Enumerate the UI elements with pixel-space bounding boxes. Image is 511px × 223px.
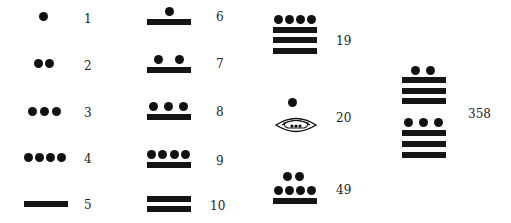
dot-icon bbox=[274, 15, 283, 24]
numeral-label: 2 bbox=[84, 60, 92, 72]
dot-icon bbox=[34, 59, 43, 68]
dot-icon bbox=[307, 15, 316, 24]
dot-icon bbox=[40, 107, 49, 116]
bar-icon bbox=[273, 198, 317, 204]
shell-icon bbox=[275, 115, 317, 135]
dot-icon bbox=[285, 15, 294, 24]
dot-icon bbox=[296, 15, 305, 24]
bar-icon bbox=[147, 67, 191, 73]
dot-icon bbox=[170, 150, 179, 159]
bar-icon bbox=[402, 130, 446, 136]
dot-icon bbox=[179, 102, 188, 111]
dot-icon bbox=[164, 102, 173, 111]
numeral-label: 3 bbox=[84, 107, 92, 119]
dot-icon bbox=[46, 153, 55, 162]
dot-icon bbox=[52, 107, 61, 116]
numeral-label: 19 bbox=[336, 35, 351, 47]
dot-icon bbox=[154, 55, 163, 64]
numeral-label: 49 bbox=[336, 184, 351, 196]
dot-icon bbox=[158, 150, 167, 159]
bar-icon bbox=[147, 19, 191, 25]
dot-icon bbox=[283, 172, 292, 181]
numeral-label: 20 bbox=[336, 112, 351, 124]
dot-icon bbox=[28, 107, 37, 116]
dot-icon bbox=[295, 172, 304, 181]
dot-icon bbox=[57, 153, 66, 162]
bar-icon bbox=[402, 141, 446, 147]
dot-icon bbox=[426, 66, 435, 75]
numeral-label: 10 bbox=[210, 200, 225, 212]
dot-icon bbox=[24, 153, 33, 162]
dot-icon bbox=[45, 59, 54, 68]
numeral-label: 7 bbox=[216, 58, 224, 70]
dot-icon bbox=[419, 118, 428, 127]
dot-icon bbox=[411, 66, 420, 75]
numeral-label: 358 bbox=[468, 108, 491, 120]
dot-icon bbox=[285, 186, 294, 195]
bar-icon bbox=[402, 98, 446, 104]
dot-icon bbox=[175, 55, 184, 64]
dot-icon bbox=[181, 150, 190, 159]
numeral-label: 4 bbox=[84, 153, 92, 165]
dot-icon bbox=[147, 150, 156, 159]
bar-icon bbox=[273, 37, 317, 43]
numeral-label: 5 bbox=[84, 199, 92, 211]
dot-icon bbox=[307, 186, 316, 195]
dot-icon bbox=[149, 102, 158, 111]
numeral-label: 8 bbox=[216, 106, 224, 118]
dot-icon bbox=[296, 186, 305, 195]
dot-icon bbox=[434, 118, 443, 127]
bar-icon bbox=[402, 77, 446, 83]
bar-icon bbox=[402, 88, 446, 94]
bar-icon bbox=[273, 48, 317, 54]
bar-icon bbox=[402, 152, 446, 158]
bar-icon bbox=[147, 196, 191, 202]
dot-icon bbox=[39, 12, 48, 21]
numeral-label: 6 bbox=[216, 11, 224, 23]
numeral-label: 9 bbox=[216, 155, 224, 167]
bar-icon bbox=[147, 206, 191, 212]
dot-icon bbox=[274, 186, 283, 195]
bar-icon bbox=[273, 27, 317, 33]
numeral-label: 1 bbox=[84, 13, 92, 25]
dot-icon bbox=[165, 7, 174, 16]
dot-icon bbox=[288, 98, 297, 107]
dot-icon bbox=[404, 118, 413, 127]
bar-icon bbox=[147, 114, 191, 120]
dot-icon bbox=[35, 153, 44, 162]
bar-icon bbox=[147, 162, 191, 168]
bar-icon bbox=[24, 201, 68, 207]
